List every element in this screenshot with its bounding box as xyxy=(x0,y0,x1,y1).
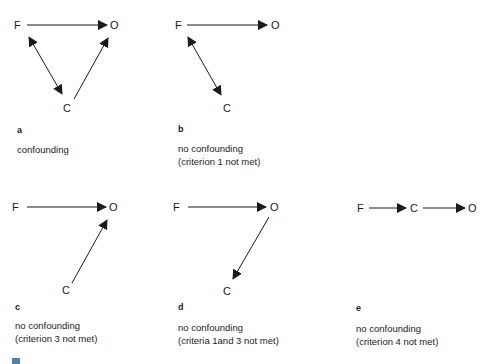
node-O: O xyxy=(271,19,280,31)
caption-line-1: no confounding xyxy=(178,322,243,333)
corner-marker xyxy=(12,358,20,364)
caption-line-2: (criterion 1 not met) xyxy=(178,156,260,167)
panel-c-caption: no confounding (criterion 3 not met) xyxy=(15,319,97,345)
panel-e-letter: e xyxy=(356,303,361,313)
caption-line-2: (criterion 3 not met) xyxy=(15,333,97,344)
panel-d-letter: d xyxy=(178,302,184,312)
node-O: O xyxy=(270,201,279,213)
caption-line-2: (criterion 4 not met) xyxy=(356,336,438,347)
node-O: O xyxy=(109,201,118,213)
node-C: C xyxy=(63,102,71,114)
node-F: F xyxy=(14,19,21,31)
panel-e-caption: no confounding (criterion 4 not met) xyxy=(356,322,438,348)
node-C: C xyxy=(223,102,231,114)
arrow-F-C-bidirectional xyxy=(29,37,62,94)
panel-a-caption: confounding xyxy=(17,143,69,156)
arrow-C-to-O xyxy=(72,220,107,283)
panel-c-letter: c xyxy=(15,302,20,312)
node-C: C xyxy=(62,284,70,296)
node-F: F xyxy=(173,201,180,213)
caption-line-1: no confounding xyxy=(15,320,80,331)
caption-line-1: confounding xyxy=(17,144,69,155)
panel-d-graph: F O C xyxy=(173,201,279,297)
node-F: F xyxy=(357,202,364,214)
node-O: O xyxy=(110,19,119,31)
node-F: F xyxy=(12,201,19,213)
node-F: F xyxy=(175,19,182,31)
panel-b-caption: no confounding (criterion 1 not met) xyxy=(178,142,260,168)
panel-b-letter: b xyxy=(178,124,184,134)
panel-a-letter: a xyxy=(17,125,22,135)
node-O: O xyxy=(468,202,477,214)
caption-line-1: no confounding xyxy=(356,323,421,334)
arrow-O-to-C xyxy=(233,217,269,279)
panel-c-graph: F O C xyxy=(12,201,118,296)
panel-e-graph: F C O xyxy=(357,202,477,214)
arrow-C-to-O xyxy=(74,38,108,99)
panel-d-caption: no confounding (criteria 1and 3 not met) xyxy=(178,321,279,347)
panel-a-graph: F O C xyxy=(14,19,119,114)
caption-line-2: (criteria 1and 3 not met) xyxy=(178,335,279,346)
node-C: C xyxy=(410,202,418,214)
confounding-diagrams: F O C F O C F O C F O C F C O xyxy=(0,0,488,364)
node-C: C xyxy=(223,285,231,297)
arrow-F-C-bidirectional xyxy=(188,37,221,95)
caption-line-1: no confounding xyxy=(178,143,243,154)
panel-b-graph: F O C xyxy=(175,19,280,114)
